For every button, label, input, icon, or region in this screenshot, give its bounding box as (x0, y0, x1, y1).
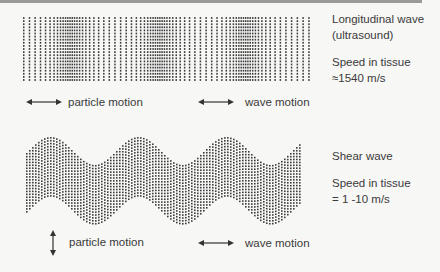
shear-particle-motion-label: particle motion (69, 234, 144, 250)
longitudinal-particle-motion-label: particle motion (68, 94, 143, 110)
shear-speed-label: Speed in tissue (332, 175, 411, 191)
vertical-double-arrow-icon (48, 230, 58, 256)
shear-speed-value: = 1 -10 m/s (332, 191, 390, 207)
longitudinal-speed-label: Speed in tissue (332, 54, 411, 70)
horizontal-double-arrow-icon (198, 97, 234, 107)
longitudinal-subtitle: (ultrasound) (332, 27, 393, 43)
shear-wave-motion-label: wave motion (245, 235, 310, 251)
shear-title: Shear wave (332, 148, 393, 164)
longitudinal-speed-value: ≈1540 m/s (332, 70, 386, 86)
horizontal-double-arrow-icon (198, 238, 234, 248)
longitudinal-wave-motion-label: wave motion (245, 94, 310, 110)
longitudinal-title: Longitudinal wave (332, 11, 424, 27)
horizontal-double-arrow-icon (26, 97, 62, 107)
